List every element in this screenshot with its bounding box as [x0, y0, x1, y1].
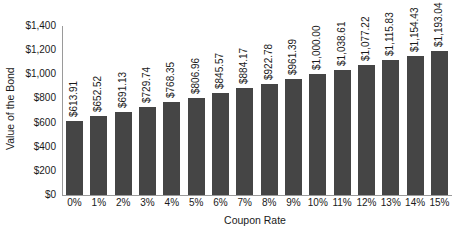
bar — [212, 93, 229, 195]
y-tick-label: $1,000 — [25, 69, 56, 79]
bar-value-label: $1,193.04 — [434, 2, 444, 47]
bar — [358, 65, 375, 195]
bar-value-label: $691.13 — [118, 71, 128, 107]
bond-value-bar-chart: Value of the Bond $0$200$400$600$800$1,0… — [0, 0, 458, 233]
bar — [188, 98, 205, 195]
bar — [139, 107, 156, 195]
y-tick-label: $1,400 — [25, 21, 56, 31]
bar-value-label: $1,154.43 — [410, 7, 420, 52]
y-tick-label: $0 — [45, 190, 56, 200]
bar-value-label: $884.17 — [239, 48, 249, 84]
bar-value-label: $652.52 — [93, 76, 103, 112]
bar-value-label: $1,077.22 — [361, 16, 371, 61]
bar — [66, 121, 83, 195]
bar-value-label: $729.74 — [142, 67, 152, 103]
y-axis-label: Value of the Bond — [4, 67, 16, 150]
x-axis-label: Coupon Rate — [205, 214, 305, 226]
bar — [236, 88, 253, 195]
bar — [163, 102, 180, 195]
bar-value-label: $961.39 — [288, 39, 298, 75]
bar-value-label: $806.96 — [191, 57, 201, 93]
bar — [334, 70, 351, 195]
bar-value-label: $922.78 — [264, 43, 274, 79]
y-tick-label: $400 — [34, 142, 56, 152]
bar — [115, 112, 132, 195]
bar-value-label: $613.91 — [69, 81, 79, 117]
bar — [285, 79, 302, 195]
y-tick-label: $1,200 — [25, 45, 56, 55]
bar — [407, 56, 424, 195]
bar — [261, 84, 278, 195]
x-axis-line — [62, 195, 452, 196]
y-tick-label: $600 — [34, 118, 56, 128]
bar-value-label: $1,038.61 — [337, 21, 347, 66]
bar — [431, 51, 448, 195]
bar-value-label: $1,000.00 — [312, 26, 322, 71]
y-axis-line — [62, 26, 63, 195]
x-tick-label: 15% — [424, 198, 454, 208]
bar — [90, 116, 107, 195]
y-tick-label: $800 — [34, 93, 56, 103]
bar-value-label: $1,115.83 — [385, 13, 395, 57]
bar — [382, 60, 399, 195]
bar-value-label: $768.35 — [166, 62, 176, 98]
bar — [309, 74, 326, 195]
bar-value-label: $845.57 — [215, 53, 225, 89]
y-tick-label: $200 — [34, 166, 56, 176]
